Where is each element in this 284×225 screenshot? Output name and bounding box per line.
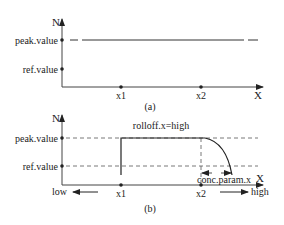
- peak-tick-dot: [60, 136, 64, 140]
- x2-label: x2: [196, 188, 206, 199]
- x1-label: x1: [116, 188, 126, 199]
- peak-tick-label: peak.value: [15, 133, 59, 144]
- high-label: high: [251, 186, 269, 197]
- rolloff-label: rolloff.x=high: [133, 120, 189, 131]
- x1-label: x1: [116, 90, 126, 101]
- caption-b: (b): [144, 203, 156, 215]
- y-axis-label: N: [52, 16, 60, 28]
- ref-tick-dot: [60, 67, 64, 71]
- panel-b: N X peak.value ref.value rolloff.x=high …: [15, 112, 269, 215]
- ref-tick-dot: [60, 164, 64, 168]
- x2-dot: [199, 85, 203, 89]
- peak-tick-dot: [60, 38, 64, 42]
- diagram: N X peak.value ref.value x1 x2 (a) N X p…: [0, 0, 284, 225]
- x2-dot: [199, 183, 203, 187]
- x2-label: x2: [196, 90, 206, 101]
- caption-a: (a): [144, 101, 155, 113]
- x-axis-label: X: [254, 89, 262, 101]
- x-axis-label: X: [256, 172, 264, 184]
- peak-tick-label: peak.value: [15, 35, 59, 46]
- x1-dot: [119, 183, 123, 187]
- low-label: low: [52, 186, 68, 197]
- y-axis-label: N: [52, 112, 60, 124]
- ref-tick-label: ref.value: [23, 161, 59, 172]
- panel-a: N X peak.value ref.value x1 x2 (a): [15, 16, 263, 113]
- ref-tick-label: ref.value: [23, 64, 59, 75]
- x1-dot: [119, 85, 123, 89]
- rolloff-curve: [121, 138, 232, 175]
- interval-label: conc.param.x: [197, 174, 251, 185]
